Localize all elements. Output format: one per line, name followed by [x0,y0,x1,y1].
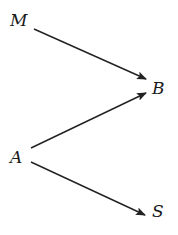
node-a-label: A [10,149,22,166]
edges-layer [0,0,178,235]
edge-a-to-b [31,93,146,148]
edge-m-to-b [34,29,146,79]
node-s-label: S [152,203,164,220]
node-m-label: M [10,12,27,29]
node-b-label: B [152,80,165,97]
causal-diagram: M B A S [0,0,178,235]
edge-a-to-s [31,162,145,215]
